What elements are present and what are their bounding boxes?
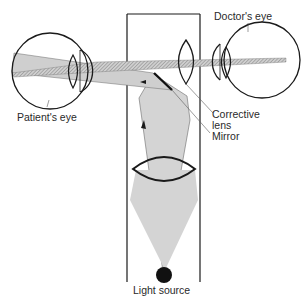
light-source (156, 267, 172, 283)
light-source-label: Light source (133, 285, 190, 296)
patients-eye-label: Patient's eye (17, 112, 77, 123)
doctors-eye-label: Doctor's eye (214, 11, 272, 22)
mirror-label: Mirror (212, 131, 239, 142)
ophthalmoscope-diagram (0, 0, 301, 302)
